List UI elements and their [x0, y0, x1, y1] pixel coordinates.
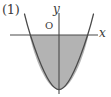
parabola-figure: (1) y x O [0, 0, 111, 97]
x-axis-label: x [99, 27, 106, 39]
y-axis-label: y [53, 3, 60, 15]
item-number-label: (1) [2, 3, 20, 16]
origin-label: O [45, 21, 53, 31]
